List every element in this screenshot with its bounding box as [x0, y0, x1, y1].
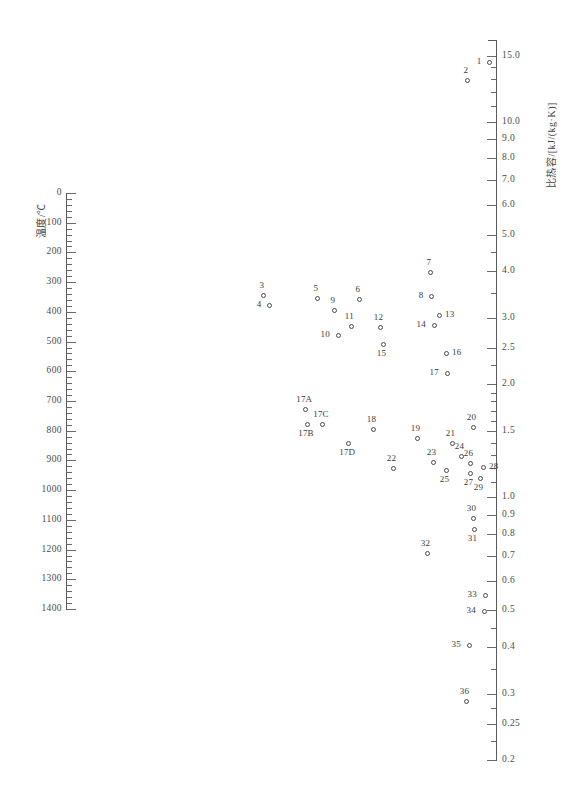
data-point[interactable]: [445, 371, 450, 376]
data-point[interactable]: [468, 471, 473, 476]
specific-heat-major-tick: [487, 271, 496, 272]
temperature-minor-tick: [67, 276, 72, 277]
specific-heat-tick-label: 2.0: [502, 379, 515, 389]
data-point-label: 17A: [296, 395, 312, 404]
temperature-minor-tick: [67, 603, 72, 604]
data-point[interactable]: [425, 551, 430, 556]
data-point[interactable]: [467, 643, 472, 648]
specific-heat-major-tick: [487, 205, 496, 206]
data-point[interactable]: [437, 313, 442, 318]
data-point[interactable]: [478, 476, 483, 481]
data-point[interactable]: [315, 296, 320, 301]
temperature-minor-tick: [67, 449, 72, 450]
data-point-label: 33: [468, 590, 477, 599]
data-point[interactable]: [482, 609, 487, 614]
specific-heat-major-tick: [487, 497, 496, 498]
data-point-label: 16: [452, 348, 461, 357]
data-point-label: 21: [446, 429, 455, 438]
data-point[interactable]: [459, 454, 464, 459]
data-point[interactable]: [483, 593, 488, 598]
data-point[interactable]: [464, 699, 469, 704]
specific-heat-major-tick: [487, 724, 496, 725]
temperature-minor-tick: [67, 484, 72, 485]
data-point[interactable]: [465, 78, 470, 83]
specific-heat-minor-tick: [491, 393, 496, 394]
data-point-label: 17D: [339, 448, 355, 457]
specific-heat-major-tick: [487, 647, 496, 648]
specific-heat-major-tick: [487, 431, 496, 432]
data-point[interactable]: [371, 427, 376, 432]
data-point-label: 34: [467, 606, 476, 615]
specific-heat-minor-tick: [491, 365, 496, 366]
data-point-label: 10: [321, 330, 330, 339]
temperature-minor-tick: [67, 241, 72, 242]
data-point[interactable]: [471, 516, 476, 521]
data-point[interactable]: [428, 270, 433, 275]
temperature-minor-tick: [67, 300, 72, 301]
temperature-minor-tick: [67, 454, 72, 455]
temperature-major-tick: [67, 579, 76, 580]
temperature-tick-label: 900: [22, 455, 62, 465]
data-point[interactable]: [346, 441, 351, 446]
temperature-tick-label: 300: [22, 277, 62, 287]
data-point[interactable]: [349, 324, 354, 329]
data-point-label: 5: [313, 284, 318, 293]
specific-heat-major-tick: [487, 158, 496, 159]
temperature-minor-tick: [67, 567, 72, 568]
data-point[interactable]: [320, 422, 325, 427]
data-point[interactable]: [444, 468, 449, 473]
data-point[interactable]: [481, 465, 486, 470]
specific-heat-tick-label: 0.7: [502, 551, 515, 561]
data-point-label: 35: [452, 640, 461, 649]
data-point[interactable]: [431, 460, 436, 465]
temperature-minor-tick: [67, 318, 72, 319]
temperature-major-tick: [67, 282, 76, 283]
data-point[interactable]: [444, 351, 449, 356]
temperature-tick-label: 1400: [22, 604, 62, 614]
data-point[interactable]: [487, 60, 492, 65]
temperature-tick-label: 1200: [22, 545, 62, 555]
temperature-minor-tick: [67, 264, 72, 265]
temperature-minor-tick: [67, 466, 72, 467]
data-point-label: 31: [468, 534, 477, 543]
temperature-minor-tick: [67, 508, 72, 509]
data-point[interactable]: [378, 325, 383, 330]
data-point[interactable]: [471, 425, 476, 430]
data-point[interactable]: [391, 466, 396, 471]
temperature-minor-tick: [67, 348, 72, 349]
data-point[interactable]: [472, 527, 477, 532]
data-point[interactable]: [450, 441, 455, 446]
temperature-minor-tick: [67, 526, 72, 527]
data-point-label: 28: [489, 462, 498, 471]
specific-heat-minor-tick: [491, 455, 496, 456]
data-point[interactable]: [429, 294, 434, 299]
specific-heat-major-tick: [487, 318, 496, 319]
specific-heat-major-tick: [487, 694, 496, 695]
data-point-label: 6: [355, 285, 360, 294]
temperature-minor-tick: [67, 425, 72, 426]
data-point[interactable]: [305, 422, 310, 427]
temperature-minor-tick: [67, 419, 72, 420]
temperature-minor-tick: [67, 413, 72, 414]
data-point[interactable]: [468, 461, 473, 466]
data-point[interactable]: [303, 407, 308, 412]
data-point[interactable]: [332, 308, 337, 313]
data-point-label: 17B: [298, 429, 314, 438]
temperature-minor-tick: [67, 437, 72, 438]
temperature-major-tick: [67, 431, 76, 432]
data-point[interactable]: [261, 293, 266, 298]
specific-heat-tick-label: 0.3: [502, 689, 515, 699]
temperature-minor-tick: [67, 478, 72, 479]
data-point[interactable]: [336, 333, 341, 338]
data-point[interactable]: [267, 303, 272, 308]
data-point-label: 18: [367, 415, 376, 424]
data-point[interactable]: [357, 297, 362, 302]
specific-heat-major-tick: [487, 122, 496, 123]
data-point[interactable]: [381, 342, 386, 347]
data-point-label: 15: [377, 349, 386, 358]
specific-heat-tick-label: 0.6: [502, 576, 515, 586]
data-point-label: 24: [455, 442, 464, 451]
temperature-minor-tick: [67, 544, 72, 545]
data-point[interactable]: [432, 323, 437, 328]
data-point[interactable]: [415, 436, 420, 441]
